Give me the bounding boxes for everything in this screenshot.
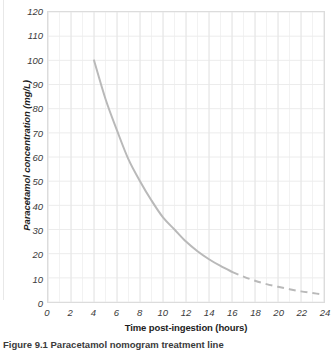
x-tick-label: 22	[287, 307, 317, 318]
chart-canvas	[48, 12, 324, 302]
x-tick-label: 6	[102, 307, 132, 318]
x-tick-label: 18	[241, 307, 271, 318]
y-tick-label: 120	[3, 6, 43, 17]
x-tick-label: 10	[148, 307, 178, 318]
y-tick-label: 0	[3, 298, 43, 309]
x-tick-label: 2	[55, 307, 85, 318]
x-tick-label: 16	[217, 307, 247, 318]
x-tick-label: 20	[264, 307, 294, 318]
x-axis-title: Time post-ingestion (hours)	[47, 322, 325, 333]
x-tick-label: 12	[171, 307, 201, 318]
figure-caption: Figure 9.1 Paracetamol nomogram treatmen…	[3, 339, 334, 350]
x-tick-label: 24	[310, 307, 334, 318]
x-tick-label: 0	[32, 307, 62, 318]
x-tick-label: 8	[125, 307, 155, 318]
plot-area	[47, 11, 325, 303]
y-axis-title: Paracetamol concentration (mg/L)	[21, 31, 32, 281]
x-tick-label: 4	[78, 307, 108, 318]
x-tick-label: 14	[194, 307, 224, 318]
figure-left-rule	[3, 0, 4, 300]
figure-container: Paracetamol concentration (mg/L) 0102030…	[0, 0, 334, 352]
